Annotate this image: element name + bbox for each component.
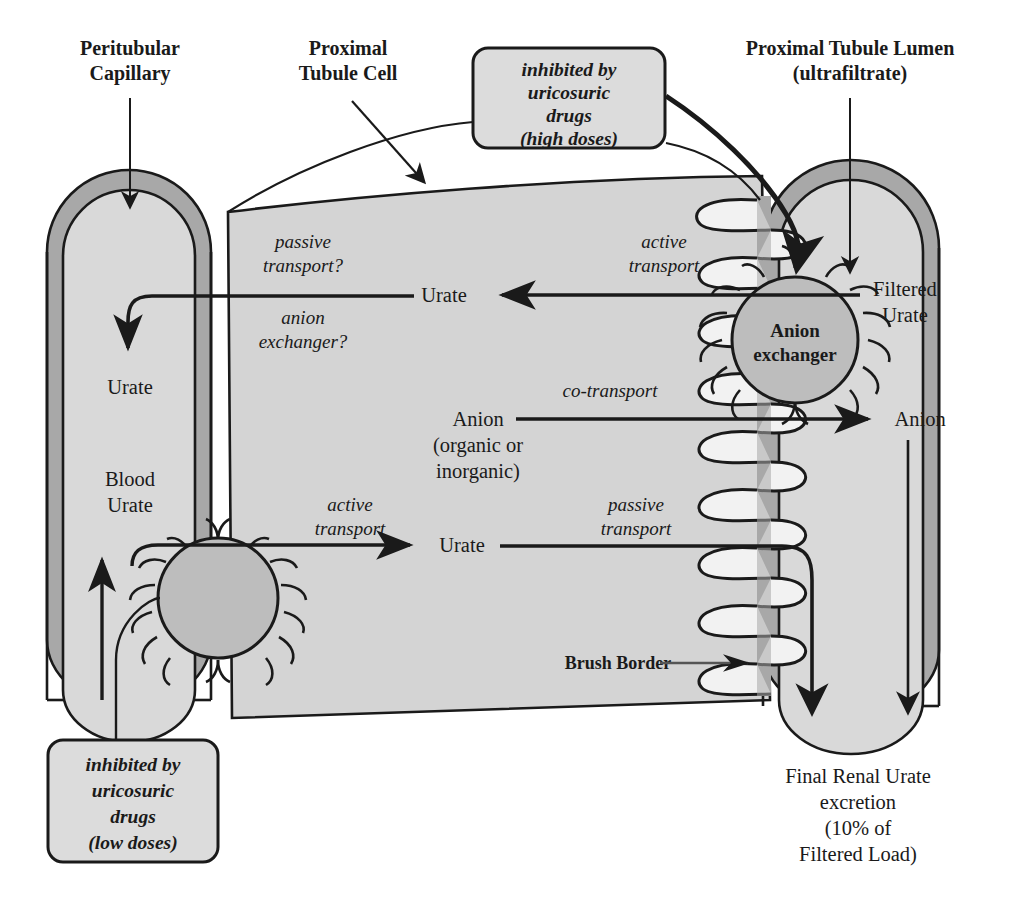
high-doses-line3: drugs (546, 105, 592, 126)
high-doses-line2: uricosuric (528, 82, 611, 103)
anion-cell-label-line2: (organic or (433, 434, 523, 457)
final-excretion-line2: excretion (820, 791, 896, 813)
urate-cell-bottom-label: Urate (439, 534, 485, 556)
final-excretion-line3: (10% of (825, 817, 892, 840)
blood-urate-label-line2: Urate (107, 494, 153, 516)
passive-transport-q-label-line1: passive (273, 231, 331, 252)
proximal-tubule-lumen-title-line1: Proximal Tubule Lumen (746, 37, 955, 59)
active-transport-bottom-label-line2: transport (315, 518, 386, 539)
low-doses-line1: inhibited by (86, 754, 181, 775)
anion-exchanger-label-line2: exchanger (753, 344, 837, 365)
passive-transport-q-label-line2: transport? (263, 255, 344, 276)
filtered-urate-label-line2: Urate (882, 304, 928, 326)
low-doses-line4: (low doses) (88, 832, 177, 854)
anion-exchanger-label-line1: Anion (770, 320, 820, 341)
peritubular-capillary (47, 170, 211, 742)
low-doses-line2: uricosuric (92, 780, 175, 801)
active-transport-bottom-label-line1: active (327, 494, 372, 515)
anion-cell-label-line3: inorganic) (436, 460, 520, 483)
active-transport-top-label-line2: transport (629, 255, 700, 276)
anion-cell-label-line1: Anion (452, 408, 503, 430)
filtered-urate-label-line1: Filtered (873, 278, 937, 300)
passive-transport-bottom-label-line1: passive (606, 494, 664, 515)
high-doses-line1: inhibited by (522, 59, 617, 80)
proximal-tubule-lumen-title-line2: (ultrafiltrate) (793, 62, 907, 85)
co-transport-label: co-transport (563, 380, 659, 401)
urate-capillary-label: Urate (107, 376, 153, 398)
final-excretion-line4: Filtered Load) (799, 843, 917, 866)
brush-border-label: Brush Border (565, 653, 672, 673)
proximal-tubule-cell-title-line2: Tubule Cell (299, 62, 398, 84)
urate-cell-top-label: Urate (421, 284, 467, 306)
figure-canvas: Anion exchanger Peritubular Capillary (0, 0, 1016, 902)
active-transport-top-label-line1: active (641, 231, 686, 252)
blood-urate-label-line1: Blood (105, 468, 155, 490)
anion-exchanger-q-label-line1: anion (281, 307, 324, 328)
anion-exchanger-q-label-line2: exchanger? (259, 331, 348, 352)
final-excretion-line1: Final Renal Urate (785, 765, 931, 787)
passive-transport-bottom-label-line2: transport (601, 518, 672, 539)
peritubular-capillary-title-line1: Peritubular (80, 37, 180, 59)
high-doses-line4: (high doses) (520, 128, 618, 150)
proximal-tubule-cell-title-line1: Proximal (309, 37, 388, 59)
peritubular-capillary-title-line2: Capillary (89, 62, 170, 85)
low-doses-line3: drugs (110, 806, 156, 827)
anion-lumen-label: Anion (894, 408, 945, 430)
